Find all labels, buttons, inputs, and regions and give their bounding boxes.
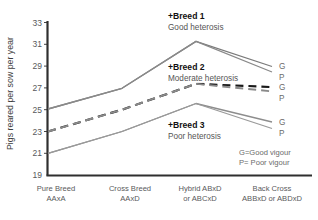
annotation-breed3-subtitle: Poor heterosis (168, 132, 221, 141)
end-label-breed2-poor: P (279, 94, 285, 103)
x-cat-3-line2: ABBxD or ABDxD (242, 194, 302, 203)
series-breed1-good (48, 41, 272, 109)
y-tick-label-29: 29 (33, 61, 43, 71)
annotation-breed3-title: +Breed 3 (168, 120, 205, 130)
y-tick-label-27: 27 (33, 83, 43, 93)
x-axis-category-1: Cross Breed AAxD (109, 184, 151, 203)
y-tick-label-25: 25 (33, 105, 43, 115)
series-breed2-poor (48, 84, 272, 132)
y-tick-label-21: 21 (33, 148, 43, 158)
heterosis-line-chart: Pigs reared per sow per year 33 31 29 27… (0, 0, 318, 220)
series-breed1-poor (48, 41, 272, 109)
y-tick-label-23: 23 (33, 127, 43, 137)
x-axis-category-2: Hybrid ABxD or ABCxD (178, 184, 222, 203)
series-breed2-good (48, 84, 272, 132)
x-cat-0-line1: Pure Breed (37, 184, 75, 193)
y-tick-label-31: 31 (33, 39, 43, 49)
x-cat-2-line2: or ABCxD (183, 194, 217, 203)
series-breed3-poor (48, 104, 272, 154)
x-cat-2-line1: Hybrid ABxD (178, 184, 222, 193)
annotation-breed2-title: +Breed 2 (168, 62, 205, 72)
annotation-breed1-title: +Breed 1 (168, 11, 205, 21)
end-label-breed1-poor: P (279, 73, 285, 82)
y-tick-label-33: 33 (33, 18, 43, 28)
chart-canvas: Pigs reared per sow per year 33 31 29 27… (0, 0, 318, 220)
legend-entry-poor-vigour: P= Poor vigour (239, 158, 290, 167)
series-breed3-good (48, 104, 272, 154)
legend-entry-good-vigour: G=Good vigour (239, 148, 291, 157)
y-tick-label-19: 19 (33, 170, 43, 180)
x-cat-0-line2: AAxA (47, 194, 67, 203)
y-axis-title: Pigs reared per sow per year (5, 37, 15, 150)
x-axis-category-3: Back Cross ABBxD or ABDxD (242, 184, 302, 203)
end-label-breed3-good: G (279, 118, 285, 127)
x-cat-1-line1: Cross Breed (109, 184, 151, 193)
x-cat-1-line2: AAxD (120, 194, 140, 203)
end-label-breed3-poor: P (279, 129, 285, 138)
end-label-breed2-good: G (279, 83, 285, 92)
annotation-breed2-subtitle: Moderate heterosis (168, 74, 238, 83)
end-label-breed1-good: G (279, 62, 285, 71)
x-cat-3-line1: Back Cross (253, 184, 292, 193)
annotation-breed1-subtitle: Good heterosis (168, 23, 224, 32)
x-axis-category-0: Pure Breed AAxA (37, 184, 75, 203)
